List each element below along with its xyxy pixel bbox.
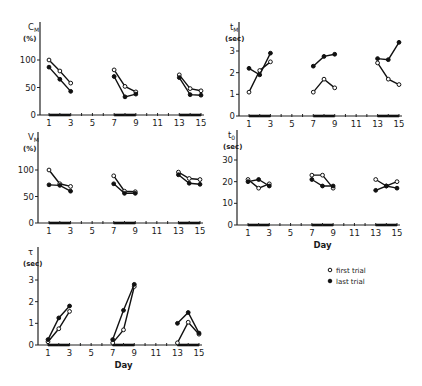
y-tick-label: 3 [29, 275, 34, 285]
data-point-filled [58, 77, 62, 81]
data-point-filled [376, 57, 380, 61]
figure: 13579111315050100CM(%)135791113150123tM(… [0, 0, 422, 386]
x-tick-label: 5 [89, 226, 94, 236]
y-tick-label: 2 [29, 297, 34, 307]
data-point-open [321, 173, 325, 177]
x-tick-label: 1 [246, 119, 251, 129]
data-point-filled [132, 282, 136, 286]
series-line-open [113, 287, 135, 343]
y-tick-label: 3 [230, 46, 235, 56]
legend-first-trial-label: first trial [336, 267, 366, 275]
data-point-open [47, 168, 51, 172]
series-line-open [177, 322, 199, 343]
data-point-open [322, 77, 326, 81]
x-tick-label: 13 [174, 118, 185, 128]
y-tick-label: 0 [29, 218, 34, 228]
data-point-filled [112, 75, 116, 79]
y-axis-label: tM [230, 22, 239, 33]
data-point-filled [123, 191, 127, 195]
x-tick-label: 7 [309, 228, 314, 238]
x-tick-label: 11 [151, 226, 162, 236]
x-tick-label: 3 [67, 348, 72, 358]
panel-tau: 135791113150123τ(sec)Day [23, 247, 204, 370]
data-point-open [112, 174, 116, 178]
x-tick-label: 1 [46, 118, 51, 128]
data-point-filled [133, 191, 137, 195]
y-tick-label: 30 [222, 155, 233, 165]
series-line-filled [48, 306, 70, 340]
data-point-filled [112, 182, 116, 186]
data-point-filled [331, 184, 335, 188]
data-point-filled [198, 182, 202, 186]
x-tick-label: 1 [245, 228, 250, 238]
data-point-filled [69, 189, 73, 193]
x-tick-label: 15 [392, 228, 403, 238]
y-axis-unit: (sec) [23, 260, 42, 268]
data-point-open [374, 178, 378, 182]
y-axis-label: CM [28, 22, 39, 33]
data-point-filled [177, 76, 181, 80]
data-point-filled [46, 338, 50, 342]
y-tick-label: 10 [222, 198, 233, 208]
data-point-open [376, 61, 380, 65]
legend-filled-marker-icon [328, 279, 332, 283]
data-point-filled [322, 55, 326, 59]
x-tick-label: 13 [370, 228, 381, 238]
x-tick-label: 9 [133, 118, 138, 128]
data-point-filled [310, 178, 314, 182]
x-tick-label: 13 [372, 119, 383, 129]
data-point-filled [247, 66, 251, 70]
data-point-open [47, 58, 51, 62]
data-point-filled [68, 304, 72, 308]
data-point-filled [47, 183, 51, 187]
data-point-open [176, 341, 180, 345]
y-tick-label: 50 [25, 83, 36, 93]
x-tick-label: 5 [289, 119, 294, 129]
data-point-open [187, 177, 191, 181]
y-tick-label: 0 [230, 111, 235, 121]
x-tick-label: 11 [150, 348, 161, 358]
data-point-filled [197, 331, 201, 335]
y-tick-label: 1 [230, 89, 235, 99]
x-tick-label: 3 [68, 118, 73, 128]
data-point-open [199, 89, 203, 93]
data-point-filled [246, 180, 250, 184]
data-point-open [186, 320, 190, 324]
data-point-open [57, 327, 61, 331]
data-point-open [257, 186, 261, 190]
data-point-filled [134, 92, 138, 96]
legend: first triallast trial [328, 267, 366, 286]
data-point-open [397, 83, 401, 87]
x-tick-label: 7 [111, 118, 116, 128]
data-point-open [333, 86, 337, 90]
data-point-open [58, 69, 62, 73]
y-tick-label: 0 [29, 340, 34, 350]
data-point-filled [199, 93, 203, 97]
x-tick-label: 1 [45, 348, 50, 358]
x-tick-label: 7 [111, 226, 116, 236]
y-axis-label: t0 [228, 130, 235, 141]
data-point-open [198, 178, 202, 182]
data-point-filled [69, 89, 73, 93]
x-tick-label: 3 [268, 119, 273, 129]
data-point-filled [397, 40, 401, 44]
data-point-filled [321, 184, 325, 188]
data-point-filled [47, 65, 51, 69]
data-point-open [188, 87, 192, 91]
x-tick-label: 15 [195, 226, 206, 236]
data-point-filled [374, 188, 378, 192]
y-tick-label: 50 [23, 192, 34, 202]
data-point-filled [111, 338, 115, 342]
data-point-filled [269, 51, 273, 55]
data-point-filled [58, 183, 62, 187]
data-point-open [122, 328, 126, 332]
data-point-open [69, 185, 73, 189]
data-point-filled [257, 178, 261, 182]
x-tick-label: 9 [330, 228, 335, 238]
data-point-filled [311, 64, 315, 68]
data-point-open [123, 85, 127, 89]
data-point-open [269, 60, 273, 64]
x-tick-label: 7 [110, 348, 115, 358]
y-tick-label: 0 [31, 110, 36, 120]
y-tick-label: 1 [29, 318, 34, 328]
